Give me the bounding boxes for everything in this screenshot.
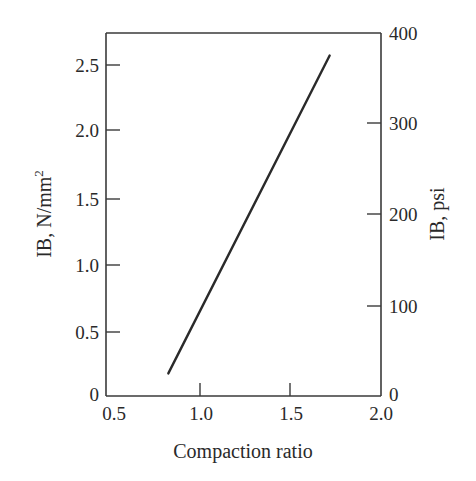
y2tick-label: 400	[389, 23, 418, 44]
y2tick-label: 200	[389, 204, 418, 225]
ytick-label: 1.0	[75, 255, 99, 276]
xtick-label: 1.0	[189, 403, 213, 424]
left-y-axis-title: IB, N/mm2	[31, 170, 55, 258]
right-y-ticks	[367, 123, 381, 306]
left-y-axis-title-superscript: 2	[31, 170, 46, 177]
left-y-ticks	[106, 65, 120, 332]
x-ticks	[200, 383, 290, 396]
right-y-axis-title: IB, psi	[426, 187, 449, 241]
plot-frame	[106, 33, 381, 396]
left-y-axis-title-base: IB, N/mm	[33, 176, 55, 258]
y2tick-label: 0	[389, 384, 399, 405]
y2tick-label: 100	[389, 296, 418, 317]
ytick-label: 1.5	[75, 189, 99, 210]
ytick-label: 0.5	[75, 322, 99, 343]
xtick-label: 1.5	[279, 403, 303, 424]
ytick-label: 2.0	[75, 120, 99, 141]
ytick-label: 0	[90, 384, 100, 405]
chart: 2.5 2.0 1.5 1.0 0.5 0 400 300 200 100 0 …	[0, 0, 476, 481]
y2tick-label: 300	[389, 113, 418, 134]
right-y-tick-labels: 400 300 200 100 0	[389, 23, 418, 405]
left-y-tick-labels: 2.5 2.0 1.5 1.0 0.5 0	[75, 55, 99, 405]
xtick-label: 2.0	[369, 403, 393, 424]
xtick-label: 0.5	[102, 403, 126, 424]
ytick-label: 2.5	[75, 55, 99, 76]
x-axis-title: Compaction ratio	[173, 440, 312, 463]
data-series-line	[168, 56, 329, 374]
x-tick-labels: 0.5 1.0 1.5 2.0	[102, 403, 393, 424]
